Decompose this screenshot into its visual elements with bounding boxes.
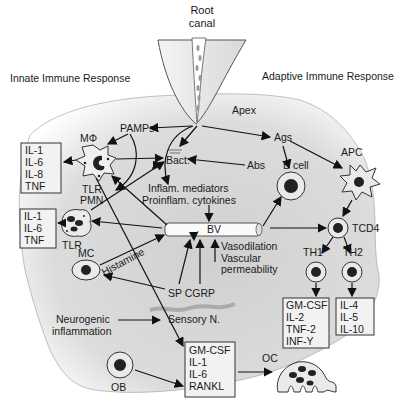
inflammation-label: inflammation <box>52 325 112 337</box>
tcd4-label: TCD4 <box>352 222 380 234</box>
th2-cell <box>342 262 362 282</box>
svg-text:IL-2: IL-2 <box>286 311 304 323</box>
proinflam-cytokines-label: Proinflam. cytokines <box>142 194 236 206</box>
abs-label: Abs <box>247 159 265 171</box>
sensory-nerve-label: Sensory N. <box>168 313 220 325</box>
svg-text:IL-5: IL-5 <box>340 311 358 323</box>
svg-text:IL-1: IL-1 <box>24 210 42 222</box>
pamps-label: PAMPs <box>120 122 154 134</box>
tcd4-cell <box>328 218 348 238</box>
svg-text:IL-8: IL-8 <box>25 168 43 180</box>
th1-label: TH1 <box>303 246 323 258</box>
permeability-label: permeability <box>221 263 278 275</box>
th1-cell <box>306 262 326 282</box>
apc-label: APC <box>341 146 363 158</box>
svg-text:TNF: TNF <box>25 180 45 192</box>
osteoblast-cell <box>107 352 133 378</box>
root-canal-label-2: canal <box>189 17 215 29</box>
bv-label: BV <box>207 223 221 235</box>
ags-label: Ags <box>274 131 292 143</box>
svg-text:IL-6: IL-6 <box>24 222 42 234</box>
svg-text:IL-4: IL-4 <box>340 299 358 311</box>
bone-cytokine-box: GM-CSF IL-1 IL-6 RANKL <box>185 342 235 397</box>
svg-text:TNF: TNF <box>24 234 44 246</box>
ob-label: OB <box>111 381 126 393</box>
oc-label: OC <box>262 352 278 364</box>
innate-heading: Innate Immune Response <box>10 72 130 84</box>
macrophage-label: MΦ <box>80 132 97 144</box>
th2-cytokine-box: IL-4 IL-5 IL-10 <box>336 298 374 335</box>
pmn-cell <box>62 210 91 237</box>
svg-text:IL-10: IL-10 <box>340 323 364 335</box>
svg-text:GM-CSF: GM-CSF <box>189 344 230 356</box>
svg-text:GM-CSF: GM-CSF <box>286 299 327 311</box>
svg-text:IL-1: IL-1 <box>189 356 207 368</box>
inflam-mediators-label: Inflam. mediators <box>148 182 229 194</box>
root-canal-label: Root <box>190 4 213 16</box>
sp-cgrp-label: SP CGRP <box>168 287 215 299</box>
macrophage-cytokine-box: IL-1 IL-6 IL-8 TNF <box>21 143 61 193</box>
svg-text:IL-1: IL-1 <box>25 144 43 156</box>
mc-label: MC <box>78 247 95 259</box>
svg-text:RANKL: RANKL <box>189 380 224 392</box>
th2-label: TH2 <box>343 246 363 258</box>
svg-text:IL-6: IL-6 <box>189 368 207 380</box>
bact-label: Bact. <box>166 154 190 166</box>
vasodilation-label: Vasodilation <box>221 240 278 252</box>
th1-cytokine-box: GM-CSF IL-2 TNF-2 INF-Y <box>283 298 329 348</box>
b-cell <box>277 172 305 200</box>
apex-label: Apex <box>232 104 257 116</box>
svg-text:INF-Y: INF-Y <box>286 335 313 347</box>
periapical-immune-diagram: Root canal Innate Immune Response Adapti… <box>0 0 404 414</box>
svg-text:TNF-2: TNF-2 <box>286 323 316 335</box>
pmn-cytokine-box: IL-1 IL-6 TNF <box>20 209 56 248</box>
adaptive-heading: Adaptive Immune Response <box>262 70 394 82</box>
mast-cell <box>72 260 100 280</box>
neurogenic-label: Neurogenic <box>56 313 110 325</box>
svg-text:IL-6: IL-6 <box>25 156 43 168</box>
